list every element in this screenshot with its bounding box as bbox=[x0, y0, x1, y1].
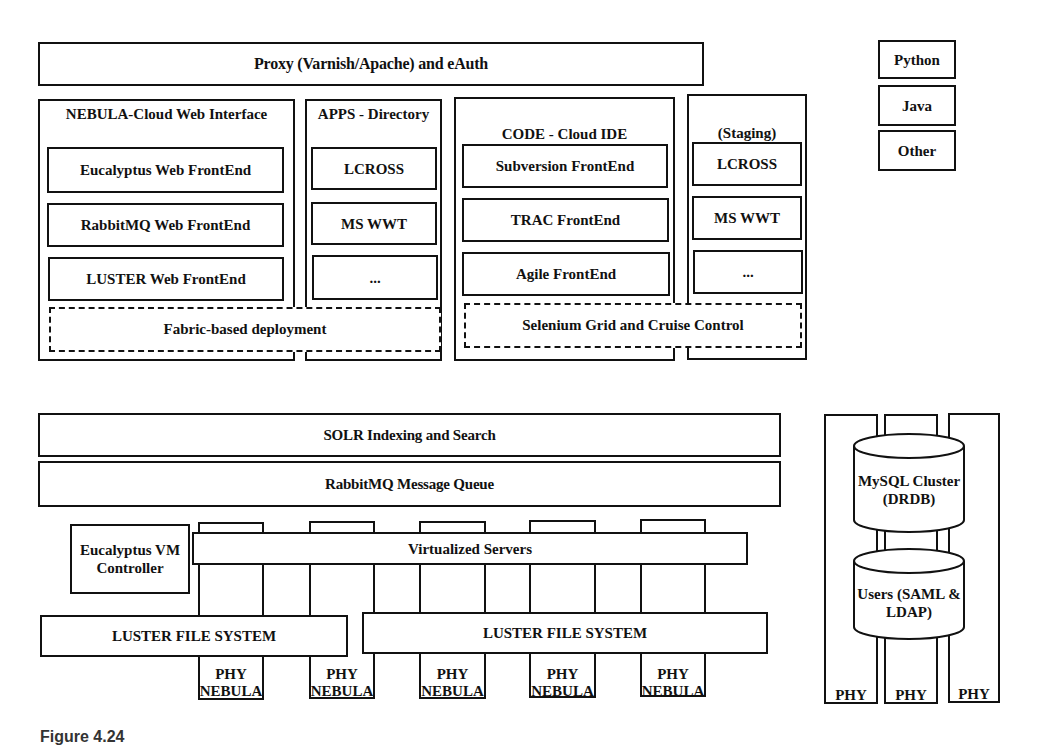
eucalyptus-vm-controller: Eucalyptus VM Controller bbox=[70, 524, 190, 594]
db-phy-2: PHY bbox=[884, 680, 938, 706]
selenium-cruise-control-box: Selenium Grid and Cruise Control bbox=[464, 303, 802, 348]
solr-indexing-box: SOLR Indexing and Search bbox=[38, 413, 781, 457]
luster-web-frontend: LUSTER Web FrontEnd bbox=[48, 257, 284, 301]
apps-lcross: LCROSS bbox=[311, 147, 437, 190]
mysql-cluster-label: MySQL Cluster (DRDB) bbox=[856, 460, 962, 520]
phy-nebula-5: PHY NEBULA bbox=[640, 654, 706, 702]
staging-ms-wwt: MS WWT bbox=[692, 196, 802, 240]
db-phy-3: PHY bbox=[948, 679, 1000, 705]
rabbitmq-web-frontend: RabbitMQ Web FrontEnd bbox=[47, 203, 284, 247]
phy-nebula-2: PHY NEBULA bbox=[309, 654, 375, 702]
staging-title: (Staging) bbox=[689, 124, 805, 143]
language-other: Other bbox=[878, 130, 956, 171]
luster-file-system-right: LUSTER FILE SYSTEM bbox=[362, 612, 768, 654]
fabric-deployment-box: Fabric-based deployment bbox=[49, 307, 441, 352]
subversion-frontend: Subversion FrontEnd bbox=[462, 144, 668, 188]
apps-ms-wwt: MS WWT bbox=[311, 202, 437, 245]
trac-frontend: TRAC FrontEnd bbox=[462, 198, 669, 242]
figure-caption: Figure 4.24 bbox=[40, 728, 124, 746]
agile-frontend: Agile FrontEnd bbox=[462, 252, 670, 296]
phy-nebula-3: PHY NEBULA bbox=[419, 654, 486, 702]
language-python: Python bbox=[878, 40, 956, 79]
phy-nebula-1: PHY NEBULA bbox=[198, 654, 264, 702]
virtualized-servers-bar: Virtualized Servers bbox=[192, 532, 748, 565]
phy-nebula-4: PHY NEBULA bbox=[529, 654, 596, 702]
staging-more: ... bbox=[693, 250, 803, 294]
db-phy-1: PHY bbox=[824, 680, 878, 706]
language-java: Java bbox=[878, 85, 956, 126]
staging-lcross: LCROSS bbox=[692, 142, 802, 186]
apps-directory-title: APPS - Directory bbox=[307, 105, 440, 124]
code-ide-title: CODE - Cloud IDE bbox=[456, 125, 673, 144]
users-db-label: Users (SAML & LDAP) bbox=[856, 573, 962, 633]
proxy-box: Proxy (Varnish/Apache) and eAuth bbox=[38, 42, 704, 86]
apps-more: ... bbox=[312, 255, 438, 300]
nebula-web-title: NEBULA-Cloud Web Interface bbox=[40, 105, 293, 124]
luster-file-system-left: LUSTER FILE SYSTEM bbox=[40, 615, 348, 657]
rabbitmq-queue-box: RabbitMQ Message Queue bbox=[38, 461, 781, 507]
eucalyptus-web-frontend: Eucalyptus Web FrontEnd bbox=[47, 147, 284, 193]
